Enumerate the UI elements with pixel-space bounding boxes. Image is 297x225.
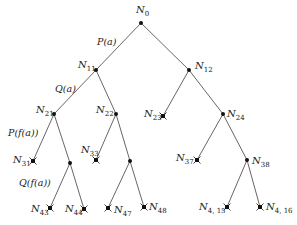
node-label-n12: N12 (194, 60, 213, 74)
node-label-n33: N33 (80, 144, 99, 158)
tree-edge (54, 114, 70, 163)
node-label-n48: N48 (148, 201, 167, 215)
tree-edge (108, 161, 130, 208)
node-label-n43: N43 (30, 203, 49, 217)
tree-edge (197, 114, 223, 160)
edge-label: Q(a) (55, 83, 76, 94)
node-label-n23: N23 (143, 108, 162, 122)
node-label-n38: N38 (251, 155, 270, 169)
node-label-n22: N22 (95, 104, 114, 118)
failure-node-icon (141, 204, 148, 211)
tree-node-dot (221, 112, 225, 116)
node-label-n37: N37 (175, 152, 194, 166)
failure-node-icon (105, 205, 112, 212)
tree-edge (96, 114, 116, 160)
node-label-n416: N4, 16 (265, 201, 293, 215)
edge-label: Q(f(a)) (19, 177, 51, 188)
tree-node-dot (68, 161, 72, 165)
node-label-n415: N4, 15 (198, 201, 226, 215)
tree-edge (141, 23, 189, 70)
node-label-n21: N21 (35, 104, 54, 118)
node-label-n24: N24 (226, 108, 245, 122)
node-label-n44: N44 (64, 203, 83, 217)
tree-edge (130, 161, 144, 207)
tree-node-dot (128, 159, 132, 163)
tree-edge (50, 163, 70, 208)
tree-edge (247, 160, 260, 207)
failure-node-icon (93, 157, 100, 164)
node-label-n0: N0 (135, 4, 149, 18)
tree-edge (116, 114, 130, 161)
node-labels-layer: N0N11N12N21N22N23N24N31N33N37N38N43N44N4… (12, 4, 293, 218)
tree-canvas: N0N11N12N21N22N23N24N31N33N37N38N43N44N4… (0, 0, 297, 225)
failure-node-icon (194, 157, 201, 164)
tree-edge (163, 70, 189, 116)
tree-node-dot (187, 68, 191, 72)
tree-node-dot (114, 112, 118, 116)
tree-edge (189, 70, 223, 114)
edge-label: P(f(a)) (7, 127, 39, 138)
node-label-n31: N31 (12, 154, 31, 168)
edge-label: P(a) (96, 36, 117, 47)
failure-node-icon (257, 204, 264, 211)
tree-edge (227, 160, 247, 207)
semantic-tree-diagram: N0N11N12N21N22N23N24N31N33N37N38N43N44N4… (0, 0, 297, 225)
node-label-n47: N47 (113, 204, 132, 218)
tree-node-dot (245, 158, 249, 162)
node-label-n11: N11 (77, 59, 96, 73)
tree-node-dot (139, 21, 143, 25)
